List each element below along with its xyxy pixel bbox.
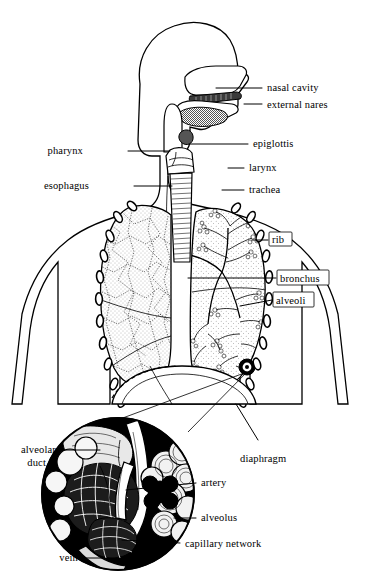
capillary-network-shape-2: [88, 518, 137, 558]
label-bronchus-group: bronchus: [277, 270, 329, 285]
label-rib-group: rib: [269, 232, 292, 246]
tongue: [178, 107, 227, 126]
label-alveolar-duct-line2: duct: [27, 457, 46, 468]
label-diaphragm: diaphragm: [240, 453, 286, 464]
label-external-nares: external nares: [267, 99, 328, 110]
pharynx-airway: [164, 104, 182, 152]
label-artery: artery: [201, 477, 227, 488]
larynx-shape: [166, 148, 194, 174]
label-alveoli-group: alveoli: [273, 292, 314, 307]
diagram-canvas: nasal cavity external nares epiglottis l…: [0, 0, 370, 577]
label-alveoli: alveoli: [276, 295, 306, 306]
label-esophagus: esophagus: [44, 180, 89, 191]
respiratory-system-figure: nasal cavity external nares epiglottis l…: [0, 0, 370, 577]
label-pharynx: pharynx: [48, 145, 84, 156]
nasal-cavity-space: [185, 66, 247, 95]
label-alveolar-duct-line1: alveolar: [21, 444, 56, 455]
alveolus-inset: [42, 418, 200, 574]
label-alveolus: alveolus: [201, 512, 237, 523]
epiglottis-shape: [179, 130, 193, 145]
label-capillary-network: capillary network: [185, 538, 262, 549]
label-larynx: larynx: [249, 162, 277, 173]
label-nasal-cavity: nasal cavity: [267, 82, 319, 93]
label-rib: rib: [272, 234, 284, 245]
label-vein: vein: [59, 552, 78, 563]
label-bronchus: bronchus: [280, 273, 320, 284]
label-trachea: trachea: [249, 184, 281, 195]
leader-diaphragm: [236, 404, 258, 440]
label-epiglottis: epiglottis: [253, 138, 294, 149]
body-silhouette: [12, 22, 348, 404]
